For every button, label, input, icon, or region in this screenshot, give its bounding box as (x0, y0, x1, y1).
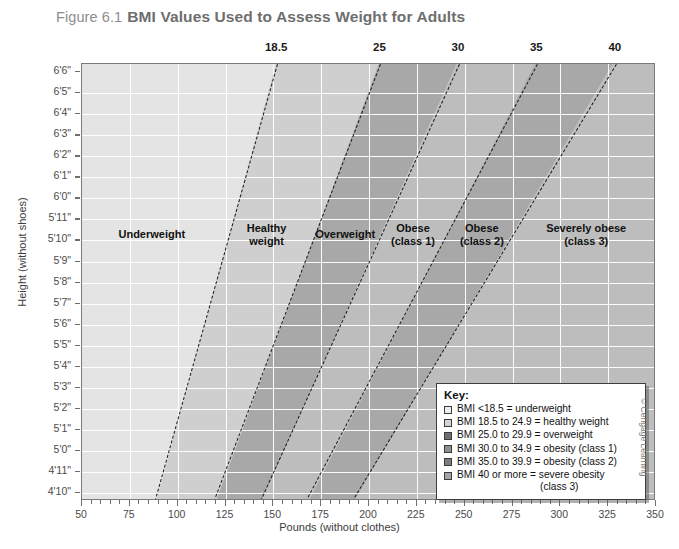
gridline-horizontal (82, 114, 655, 115)
y-axis-tick (75, 492, 80, 493)
x-axis-tick-major (272, 500, 273, 506)
x-axis-tick-major (177, 500, 178, 506)
y-axis-tick (75, 471, 80, 472)
x-axis-tick-label: 100 (157, 508, 197, 520)
legend-swatch (444, 406, 452, 414)
gridline-horizontal (82, 367, 655, 368)
y-axis-tick (75, 71, 80, 72)
x-axis-tick-minor (569, 500, 570, 504)
x-axis-tick-minor (234, 500, 235, 504)
x-axis-tick-label: 50 (61, 508, 101, 520)
legend-item-label: BMI 25.0 to 29.9 = overweight (457, 429, 593, 441)
y-axis-tick (75, 450, 80, 451)
gridline-horizontal (82, 156, 655, 157)
x-axis-tick-label: 325 (587, 508, 627, 520)
legend-swatch (444, 458, 452, 466)
y-axis-tick (75, 366, 80, 367)
band-label-severely-obese: Severely obese(class 3) (526, 222, 646, 247)
x-axis-tick-minor (521, 500, 522, 504)
x-axis-tick-minor (167, 500, 168, 504)
gridline-horizontal (82, 219, 655, 220)
x-axis-tick-major (368, 500, 369, 506)
y-axis-tick (75, 134, 80, 135)
x-axis-tick-minor (492, 500, 493, 504)
band-label-underweight: Underweight (92, 228, 212, 241)
x-axis-tick-minor (215, 500, 216, 504)
x-axis-tick-label: 275 (492, 508, 532, 520)
y-axis-tick (75, 113, 80, 114)
x-axis-tick-major (225, 500, 226, 506)
y-axis-tick-label: 5'5" (20, 338, 71, 350)
legend-item-label: BMI 40 or more = severe obesity (457, 469, 605, 481)
y-axis-tick (75, 92, 80, 93)
top-bmi-tick-label-40: 40 (593, 41, 637, 53)
x-axis-tick-label: 300 (539, 508, 579, 520)
y-axis-tick-label: 6'2" (20, 148, 71, 160)
top-bmi-tick-label-25: 25 (357, 41, 401, 53)
x-axis-tick-minor (253, 500, 254, 504)
band-label-line1: Obese (422, 222, 542, 235)
y-axis-tick-label: 5'1" (20, 422, 71, 434)
x-axis-tick-minor (626, 500, 627, 504)
x-axis-tick-minor (158, 500, 159, 504)
gridline-horizontal (82, 177, 655, 178)
legend-items: BMI <18.5 = underweightBMI 18.5 to 24.9 … (444, 403, 639, 481)
legend-swatch (444, 472, 452, 480)
legend-swatch (444, 432, 452, 440)
y-axis-tick (75, 197, 80, 198)
x-axis-tick-minor (473, 500, 474, 504)
x-axis-tick-minor (531, 500, 532, 504)
x-axis-tick-major (607, 500, 608, 506)
x-axis-tick-label: 200 (348, 508, 388, 520)
legend-key-box: Key: BMI <18.5 = underweightBMI 18.5 to … (436, 383, 646, 500)
x-axis-tick-major (655, 500, 656, 506)
x-axis-tick-minor (138, 500, 139, 504)
x-axis-tick-minor (588, 500, 589, 504)
y-axis-tick (75, 303, 80, 304)
legend-item: BMI 25.0 to 29.9 = overweight (444, 429, 639, 441)
x-axis-tick-minor (435, 500, 436, 504)
x-axis-tick-minor (311, 500, 312, 504)
legend-item: BMI 18.5 to 24.9 = healthy weight (444, 416, 639, 428)
x-axis-tick-minor (282, 500, 283, 504)
copyright-credit: © Cengage Learning (639, 398, 649, 518)
gridline-horizontal (82, 283, 655, 284)
x-axis-tick-label: 250 (444, 508, 484, 520)
y-axis-tick-label: 5'2" (20, 401, 71, 413)
x-axis-tick-major (559, 500, 560, 506)
y-axis-tick (75, 282, 80, 283)
gridline-horizontal (82, 135, 655, 136)
x-axis-tick-label: 225 (396, 508, 436, 520)
x-axis-tick-label: 125 (205, 508, 245, 520)
legend-continuation: (class 3) (540, 481, 639, 493)
figure-title-text: BMI Values Used to Assess Weight for Adu… (127, 8, 465, 25)
x-axis-tick-minor (330, 500, 331, 504)
x-axis-tick-minor (502, 500, 503, 504)
legend-item-label: BMI 30.0 to 34.9 = obesity (class 1) (457, 443, 617, 455)
gridline-horizontal (82, 304, 655, 305)
x-axis-tick-minor (196, 500, 197, 504)
x-axis-tick-minor (550, 500, 551, 504)
x-axis-tick-major (129, 500, 130, 506)
y-axis-tick-label: 5'0" (20, 443, 71, 455)
gridline-horizontal (82, 198, 655, 199)
band-label-obese: Obese(class 2) (422, 222, 542, 247)
y-axis-tick (75, 239, 80, 240)
legend-swatch (444, 445, 452, 453)
legend-item: BMI 40 or more = severe obesity (444, 469, 639, 481)
y-axis-tick (75, 387, 80, 388)
x-axis-tick-minor (406, 500, 407, 504)
x-axis-tick-minor (483, 500, 484, 504)
y-axis-tick-label: 6'5" (20, 85, 71, 97)
x-axis-tick-minor (100, 500, 101, 504)
x-axis-tick-label: 75 (109, 508, 149, 520)
x-axis-tick-major (320, 500, 321, 506)
y-axis-tick-label: 6'4" (20, 106, 71, 118)
legend-item-label: BMI 35.0 to 39.9 = obesity (class 2) (457, 456, 617, 468)
x-axis-tick-minor (636, 500, 637, 504)
x-axis-tick-label: 150 (252, 508, 292, 520)
band-label-line1: Underweight (92, 228, 212, 241)
band-label-line1: Severely obese (526, 222, 646, 235)
figure-number: Figure 6.1 (56, 9, 122, 25)
x-axis-tick-minor (445, 500, 446, 504)
